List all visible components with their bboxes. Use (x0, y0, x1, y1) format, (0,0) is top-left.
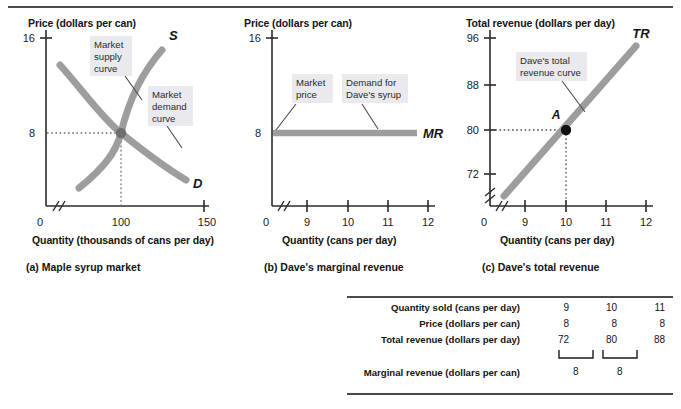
panel-a-callout-supply-line1: Market (94, 39, 124, 50)
panel-a-callout-supply-line2: supply (94, 51, 122, 62)
panel-a-supply-label: S (169, 28, 178, 43)
panel-c-callout-line1: Dave's total (520, 55, 570, 66)
panel-c-callout-daves-total-revenue-curve: Dave's total revenue curve (516, 52, 587, 81)
table-cell-mr-spacer-3 (625, 348, 673, 381)
panel-b-callout-demand-line1: Demand for (346, 77, 397, 88)
panel-b-demand-callout-leader (362, 104, 378, 129)
panel-b-xtick-label-10: 10 (342, 216, 354, 228)
table-row-label-price: Price (dollars per can) (347, 316, 529, 332)
table-row-quantity-sold: Quantity sold (cans per day) 9 10 11 (347, 300, 673, 316)
table-row-price: Price (dollars per can) 8 8 8 (347, 316, 673, 332)
table-cell-quantity-11: 11 (625, 300, 673, 316)
panel-c-x-axis-title: Quantity (cans per day) (500, 234, 614, 246)
panel-b-ytick-label-8: 8 (255, 127, 261, 139)
mr-value-1: 8 (573, 366, 579, 377)
panel-a-ytick-label-16: 16 (23, 32, 35, 44)
panel-c-ytick-label-80: 80 (467, 124, 479, 136)
panel-a-xtick-label-100: 100 (112, 216, 130, 228)
panel-c-xtick-label-9: 9 (522, 216, 528, 228)
panel-c-ytick-label-72: 72 (467, 168, 479, 180)
table-row-marginal-revenue: Marginal revenue (dollars per can) (347, 348, 673, 381)
table-top-rule (347, 296, 673, 298)
panel-b-callout-market-price: Market price (292, 74, 333, 103)
panel-a-callout-supply-line3: curve (94, 63, 117, 74)
revenue-data-table: Quantity sold (cans per day) 9 10 11 Pri… (347, 296, 673, 396)
panel-a-callout-demand-line3: curve (152, 113, 175, 124)
panel-c-point-a (561, 125, 571, 135)
mr-value-2: 8 (617, 366, 623, 377)
panel-c-tr-label: TR (632, 26, 650, 41)
panel-a-demand-label: D (193, 176, 203, 191)
panel-b-xtick-label-12: 12 (422, 216, 434, 228)
panel-b-market-price-leader (276, 104, 296, 130)
panel-b-mr-label: MR (423, 126, 444, 141)
table-cell-total-revenue-80: 80 (577, 332, 625, 348)
panel-c-plot: Dave's total revenue curve A TR 96 88 80… (452, 0, 681, 232)
panel-b-plot: Market price Demand for Dave's syrup MR … (232, 0, 462, 232)
panel-b-callout-market-price-line1: Market (296, 77, 326, 88)
panel-c-xtick-label-10: 10 (560, 216, 572, 228)
panel-c-callout-leader (562, 81, 585, 112)
table-cell-quantity-9: 9 (529, 300, 577, 316)
panel-c-xtick-label-11: 11 (600, 216, 611, 228)
panel-a-plot: Market supply curve Market demand curve … (4, 0, 234, 232)
table-cell-price-1: 8 (529, 316, 577, 332)
panel-b-callout-demand-line2: Dave's syrup (346, 89, 401, 100)
panel-a-equilibrium-point (116, 128, 126, 138)
panel-b-xtick-label-9: 9 (304, 216, 310, 228)
panel-a-ytick-label-8: 8 (29, 127, 35, 139)
panel-a-xtick-label-0: 0 (37, 216, 43, 228)
table-bottom-rule (347, 393, 673, 395)
panel-daves-marginal-revenue: Price (dollars per can) Market (232, 0, 462, 285)
panel-c-xtick-label-12: 12 (640, 216, 652, 228)
panel-b-callout-demand-for-daves-syrup: Demand for Dave's syrup (342, 74, 408, 103)
panel-a-xtick-label-150: 150 (198, 216, 216, 228)
panel-b-callout-market-price-line2: price (296, 89, 317, 100)
panel-c-ytick-label-96: 96 (467, 32, 479, 44)
panel-c-xtick-label-0: 0 (481, 216, 487, 228)
panel-a-demand-callout-leader (167, 126, 182, 148)
table-cell-price-3: 8 (625, 316, 673, 332)
panel-daves-total-revenue: Total revenue (dollars per day) (452, 0, 681, 285)
panel-b-xtick-label-0: 0 (263, 216, 269, 228)
table-row-label-quantity-sold: Quantity sold (cans per day) (347, 300, 529, 316)
panel-c-caption: (c) Dave's total revenue (482, 261, 599, 273)
figure-root: Price (dollars per can) (0, 0, 681, 409)
panel-b-xtick-label-11: 11 (382, 216, 393, 228)
table-row-label-marginal-revenue: Marginal revenue (dollars per can) (347, 348, 529, 381)
table-cell-quantity-10: 10 (577, 300, 625, 316)
panel-a-callout-market-supply-curve: Market supply curve (90, 36, 132, 76)
table-cell-price-2: 8 (577, 316, 625, 332)
revenue-table: Quantity sold (cans per day) 9 10 11 Pri… (347, 300, 673, 381)
panel-maple-syrup-market: Price (dollars per can) (4, 0, 234, 285)
panel-c-point-a-label: A (551, 108, 561, 122)
panel-b-caption: (b) Dave's marginal revenue (264, 261, 404, 273)
panel-a-callout-demand-line1: Market (152, 89, 182, 100)
panel-b-x-axis-title: Quantity (cans per day) (282, 234, 396, 246)
panel-a-callout-demand-line2: demand (152, 101, 187, 112)
panel-c-callout-line2: revenue curve (520, 67, 581, 78)
table-cell-mr-spacer (529, 348, 577, 381)
panel-c-ytick-label-88: 88 (467, 79, 479, 91)
table-row-total-revenue: Total revenue (dollars per day) 72 80 88 (347, 332, 673, 348)
panel-b-ytick-label-16: 16 (249, 32, 261, 44)
panel-a-caption: (a) Maple syrup market (26, 261, 140, 273)
table-cell-total-revenue-72: 72 (529, 332, 577, 348)
table-cell-total-revenue-88: 88 (625, 332, 673, 348)
panel-a-callout-market-demand-curve: Market demand curve (148, 86, 193, 126)
panel-a-x-axis-title: Quantity (thousands of cans per day) (32, 234, 214, 246)
table-row-label-total-revenue: Total revenue (dollars per day) (347, 332, 529, 348)
